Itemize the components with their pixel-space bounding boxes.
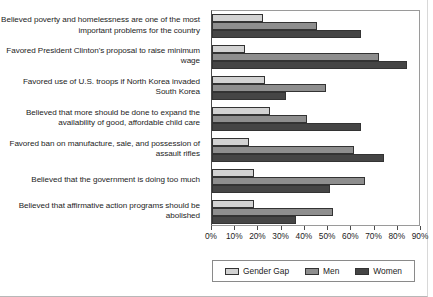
bar-gap-3 (212, 107, 270, 115)
x-tick-label-9: 90% (405, 231, 433, 242)
bar-women-6 (212, 216, 296, 224)
category-label-5: Believed that the government is doing to… (0, 175, 200, 185)
bar-group (212, 200, 419, 224)
category-label-2: Favored use of U.S. troops if North Kore… (0, 77, 200, 97)
bar-gap-4 (212, 138, 249, 146)
bar-group (212, 169, 419, 193)
legend-entry-0: Gender Gap (225, 266, 289, 276)
bar-men-2 (212, 84, 326, 92)
category-label-3: Believed that more should be done to exp… (0, 108, 200, 128)
bar-gap-5 (212, 169, 254, 177)
x-tick-5 (327, 226, 328, 230)
bar-group (212, 107, 419, 131)
bar-women-4 (212, 154, 384, 162)
x-tick-9 (420, 226, 421, 230)
bar-gap-6 (212, 200, 254, 208)
bar-women-1 (212, 61, 407, 69)
bar-gap-2 (212, 76, 265, 84)
bar-women-2 (212, 92, 286, 100)
bar-men-4 (212, 146, 354, 154)
legend-swatch-women (355, 268, 369, 275)
x-tick-7 (374, 226, 375, 230)
bar-group (212, 138, 419, 162)
bar-men-0 (212, 22, 317, 30)
bar-men-6 (212, 208, 333, 216)
category-label-1: Favored President Clinton's proposal to … (0, 46, 200, 66)
x-tick-2 (257, 226, 258, 230)
x-tick-8 (397, 226, 398, 230)
legend-swatch-gendergap (225, 268, 239, 275)
bar-gap-1 (212, 45, 245, 53)
category-labels: Believed poverty and homelessness are on… (0, 10, 206, 226)
legend-label-gendergap: Gender Gap (243, 266, 289, 276)
chart-legend: Gender GapMenWomen (212, 260, 415, 282)
category-label-4: Favored ban on manufacture, sale, and po… (0, 139, 200, 159)
x-tick-3 (281, 226, 282, 230)
x-tick-labels: 0%10%20%30%40%50%60%70%80%90% (196, 231, 428, 245)
category-label-0: Believed poverty and homelessness are on… (0, 15, 200, 35)
x-tick-6 (350, 226, 351, 230)
x-tick-1 (234, 226, 235, 230)
legend-entry-2: Women (355, 266, 402, 276)
bar-group (212, 76, 419, 100)
legend-swatch-men (305, 268, 319, 275)
bar-men-1 (212, 53, 379, 61)
legend-label-women: Women (373, 266, 402, 276)
bar-group (212, 45, 419, 69)
x-tick-0 (211, 226, 212, 230)
bar-gap-0 (212, 14, 263, 22)
bar-women-3 (212, 123, 361, 131)
category-label-6: Believed that affirmative action program… (0, 201, 200, 221)
plot-area (211, 10, 420, 226)
x-tick-4 (304, 226, 305, 230)
bar-women-5 (212, 185, 330, 193)
bar-group (212, 14, 419, 38)
bar-men-5 (212, 177, 365, 185)
legend-label-men: Men (323, 266, 339, 276)
legend-entry-1: Men (305, 266, 339, 276)
bar-women-0 (212, 30, 361, 38)
bar-men-3 (212, 115, 307, 123)
